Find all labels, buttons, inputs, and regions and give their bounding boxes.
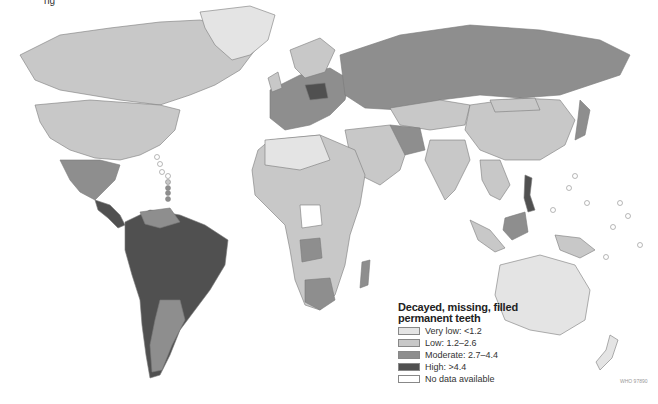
region-madagascar — [360, 260, 370, 288]
island-marker — [166, 191, 171, 196]
region-japan — [575, 100, 590, 140]
island-marker — [618, 201, 623, 206]
legend-swatch — [398, 339, 420, 347]
credit-code: WHO 97890 — [620, 378, 648, 384]
region-south-america — [125, 210, 228, 378]
legend-swatch — [398, 375, 420, 383]
map-legend: Decayed, missing, filled permanent teeth… — [398, 302, 568, 384]
region-angola — [300, 238, 322, 262]
region-uk — [268, 72, 282, 92]
legend-item-no-data: No data available — [398, 373, 568, 384]
region-borneo — [503, 212, 528, 240]
region-mexico — [60, 160, 120, 200]
island-marker — [166, 186, 171, 191]
island-marker — [626, 214, 631, 219]
island-marker — [573, 174, 578, 179]
legend-item-very-low: Very low: <1.2 — [398, 325, 568, 336]
legend-label: No data available — [425, 374, 495, 384]
island-marker — [166, 174, 171, 179]
region-russia — [340, 25, 630, 110]
island-marker — [611, 225, 616, 230]
legend-label: High: >4.4 — [425, 362, 466, 372]
island-marker — [166, 180, 171, 185]
region-new-guinea — [555, 235, 595, 258]
legend-swatch — [398, 363, 420, 371]
legend-label: Moderate: 2.7–4.4 — [425, 350, 498, 360]
legend-item-moderate: Moderate: 2.7–4.4 — [398, 349, 568, 360]
legend-swatch — [398, 351, 420, 359]
region-india — [425, 140, 470, 200]
legend-item-low: Low: 1.2–2.6 — [398, 337, 568, 348]
region-se-asia — [480, 160, 510, 200]
island-marker — [585, 201, 590, 206]
legend-swatch — [398, 327, 420, 335]
legend-label: Very low: <1.2 — [425, 326, 482, 336]
region-usa — [35, 100, 180, 160]
region-mongolia — [490, 98, 540, 112]
island-marker — [638, 243, 643, 248]
island-marker — [567, 186, 572, 191]
region-central-africa-nodata — [300, 205, 322, 228]
legend-title-line2: permanent teeth — [398, 313, 568, 324]
legend-item-high: High: >4.4 — [398, 361, 568, 372]
island-marker — [166, 197, 171, 202]
region-philippines — [524, 175, 535, 212]
island-marker — [551, 208, 556, 213]
legend-label: Low: 1.2–2.6 — [425, 338, 477, 348]
region-central-america — [95, 200, 125, 228]
region-new-zealand — [596, 335, 618, 370]
region-indonesia — [470, 220, 505, 252]
island-marker — [158, 162, 163, 167]
island-marker — [604, 255, 609, 260]
island-marker — [155, 155, 160, 160]
island-marker — [160, 170, 165, 175]
